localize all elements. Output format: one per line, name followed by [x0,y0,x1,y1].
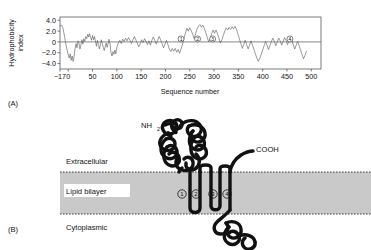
x-axis-ticks: −17050100150200250300350400450500 [54,69,317,81]
domain-annotation-number: 2 [196,36,199,42]
panel-a-tag: (A) [8,99,19,108]
x-tick-label: 450 [281,72,293,81]
y-tick-label: −2.0 [42,48,56,57]
x-tick-label: 100 [111,72,123,81]
y-tick-label: 0 [52,38,56,47]
c-terminus-label: COOH [256,145,279,154]
x-tick-label: −17 [54,72,66,81]
domain-annotation-number: 3 [211,36,214,42]
lipid-bilayer-label: Lipid bilayer [66,187,107,196]
x-tick-label: 0 [66,72,70,81]
figure-root: 4.02.00−2.0−4.0 −17050100150200250300350… [0,0,371,250]
c-terminus-tail [230,151,253,172]
y-axis-label-line1: Hydrophobicity [7,19,16,67]
y-tick-label: 2.0 [46,27,56,36]
plot-frame [60,17,321,69]
panel-b-tag: (B) [8,225,19,234]
x-axis-label: Sequence number [161,87,220,96]
x-tick-label: 350 [232,72,244,81]
y-axis-ticks: 4.02.00−2.0−4.0 [42,16,60,68]
x-tick-label: 150 [135,72,147,81]
y-tick-label: 4.0 [46,16,56,25]
membrane-topology-svg: Extracellular Lipid bilayer Cytoplasmic [0,110,371,250]
x-tick-label: 500 [305,72,317,81]
n-terminus-subscript: 2 [157,126,160,132]
n-terminus-leader [165,123,176,125]
y-axis-label-line2: index [16,34,25,52]
x-tick-label: 200 [159,72,171,81]
y-tick-label: −4.0 [42,59,56,68]
x-tick-label: 50 [89,72,97,81]
panel-b-topology-diagram: Extracellular Lipid bilayer Cytoplasmic [0,110,371,250]
domain-annotation-number: 1 [180,36,183,42]
extracellular-loop-1-2 [200,165,211,172]
extracellular-label: Extracellular [66,157,108,166]
hydrophobicity-chart-svg: 4.02.00−2.0−4.0 −17050100150200250300350… [0,0,371,110]
domain-annotation-number: 4 [289,36,292,42]
panel-a-hydrophobicity-plot: 4.02.00−2.0−4.0 −17050100150200250300350… [0,0,371,110]
cytoplasmic-label: Cytoplasmic [66,223,108,232]
x-tick-label: 300 [208,72,220,81]
n-terminus-label: NH [141,121,152,130]
x-tick-label: 400 [257,72,269,81]
x-tick-label: 250 [184,72,196,81]
